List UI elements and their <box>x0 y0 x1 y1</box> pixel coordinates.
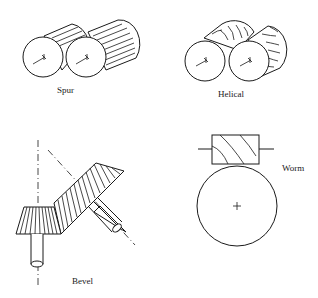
label-spur: Spur <box>57 85 74 95</box>
gear-types-diagram <box>0 0 318 298</box>
label-helical: Helical <box>218 89 244 99</box>
spur-gear-pair <box>23 20 140 77</box>
worm-gear-pair <box>197 135 277 246</box>
bevel-gear-pair <box>16 140 135 286</box>
label-bevel: Bevel <box>72 276 93 286</box>
label-worm: Worm <box>282 163 304 173</box>
helical-gear-pair <box>185 21 287 81</box>
